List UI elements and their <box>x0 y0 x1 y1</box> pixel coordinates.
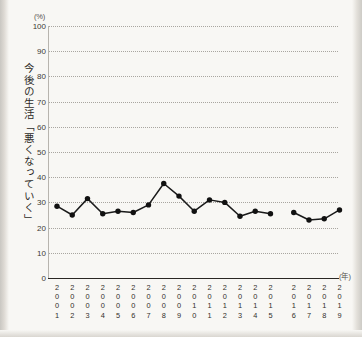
x-axis-tick-2007: 2007 <box>143 283 155 320</box>
x-axis-tick-2006: 2006 <box>127 283 139 320</box>
x-axis-tick-2019: 2019 <box>334 283 346 320</box>
data-point-2006 <box>131 210 136 215</box>
x-axis-tick-2013: 2013 <box>234 283 246 320</box>
x-axis-tick-2011: 2011 <box>204 283 216 320</box>
x-axis-tick-2002: 2002 <box>66 283 78 320</box>
data-point-2016 <box>291 210 296 215</box>
data-point-2013 <box>237 214 242 219</box>
data-point-2007 <box>146 202 151 207</box>
data-point-2011 <box>207 197 212 202</box>
x-axis-tick-2008: 2008 <box>158 283 170 320</box>
data-point-2015 <box>268 211 273 216</box>
x-axis-tick-2014: 2014 <box>249 283 261 320</box>
x-axis-tick-2012: 2012 <box>219 283 231 320</box>
data-point-2012 <box>222 200 227 205</box>
x-axis-tick-labels: 2001200220032004200520062007200820092010… <box>0 283 362 331</box>
data-point-2008 <box>161 181 166 186</box>
data-point-2005 <box>115 209 120 214</box>
x-axis-tick-2009: 2009 <box>173 283 185 320</box>
data-point-2003 <box>85 196 90 201</box>
x-axis-tick-2005: 2005 <box>112 283 124 320</box>
data-point-2018 <box>322 216 327 221</box>
x-axis-tick-2017: 2017 <box>303 283 315 320</box>
data-point-2009 <box>176 193 181 198</box>
data-point-2014 <box>253 209 258 214</box>
x-axis-tick-2015: 2015 <box>265 283 277 320</box>
chart-page: (%) (年) 今後の生活「悪くなっていく」 10090807060504030… <box>0 0 362 337</box>
x-axis-tick-2016: 2016 <box>288 283 300 320</box>
x-axis-tick-2018: 2018 <box>318 283 330 320</box>
line-chart: (%) (年) 今後の生活「悪くなっていく」 10090807060504030… <box>0 0 362 337</box>
data-point-2017 <box>306 217 311 222</box>
data-point-2010 <box>192 209 197 214</box>
data-line-segment-2 <box>294 210 340 220</box>
data-point-2001 <box>54 203 59 208</box>
data-point-2004 <box>100 211 105 216</box>
x-axis-tick-2001: 2001 <box>51 283 63 320</box>
data-point-2002 <box>70 212 75 217</box>
x-axis-tick-2004: 2004 <box>97 283 109 320</box>
data-point-2019 <box>337 207 342 212</box>
x-axis-tick-2003: 2003 <box>82 283 94 320</box>
x-axis-tick-2010: 2010 <box>188 283 200 320</box>
